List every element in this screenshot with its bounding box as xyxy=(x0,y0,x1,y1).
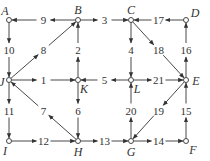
edge-arrow-line xyxy=(11,82,38,106)
edge-weight-label: 14 xyxy=(153,135,165,147)
edge-K-B: 2 xyxy=(75,23,81,78)
edge-H-J: 7 xyxy=(11,82,76,139)
node-label: C xyxy=(127,3,136,17)
edge-weight-label: 21 xyxy=(153,74,164,86)
edge-J-B: 8 xyxy=(11,22,76,78)
edge-weight-label: 7 xyxy=(41,105,47,117)
edge-weight-label: 2 xyxy=(75,44,81,56)
node-J: J xyxy=(0,75,12,89)
node-label: B xyxy=(74,3,82,17)
node-D: D xyxy=(184,6,200,23)
node-label: E xyxy=(191,74,200,88)
node-circle-icon xyxy=(7,18,12,23)
edge-E-G: 19 xyxy=(133,82,184,139)
edge-B-A: 9 xyxy=(12,14,76,26)
node-A: A xyxy=(0,4,11,23)
node-circle-icon xyxy=(76,18,81,23)
edge-weight-label: 11 xyxy=(4,105,15,117)
edge-weight-label: 16 xyxy=(181,44,193,56)
edge-weight-label: 5 xyxy=(102,74,108,86)
node-F: F xyxy=(184,139,198,158)
node-circle-icon xyxy=(76,139,81,144)
node-label: D xyxy=(190,6,200,20)
edge-arrow-line xyxy=(163,82,184,105)
edge-weight-label: 6 xyxy=(75,105,81,117)
edge-arrow-line xyxy=(133,22,154,45)
node-circle-icon xyxy=(129,139,134,144)
edge-weight-label: 9 xyxy=(41,14,47,26)
edge-weight-label: 19 xyxy=(153,105,165,117)
edge-arrow-line xyxy=(163,55,184,78)
node-label: K xyxy=(79,82,89,96)
edge-arrow-line xyxy=(49,115,76,139)
edge-C-L: 4 xyxy=(128,23,134,78)
edge-L-K: 5 xyxy=(81,74,129,86)
edge-F-E: 15 xyxy=(181,83,193,139)
node-label: L xyxy=(133,82,141,96)
edges-layer: 931710824181615211176201915121314 xyxy=(4,14,193,147)
edge-D-C: 17 xyxy=(134,14,184,26)
node-label: F xyxy=(188,143,197,157)
node-circle-icon xyxy=(184,139,189,144)
edge-E-D: 16 xyxy=(181,23,193,78)
edge-G-F: 14 xyxy=(134,135,184,147)
edge-C-E: 18 xyxy=(133,22,184,78)
node-circle-icon xyxy=(7,78,12,83)
edge-J-I: 11 xyxy=(4,83,15,139)
edge-J-K: 1 xyxy=(12,74,76,86)
node-circle-icon xyxy=(184,78,189,83)
edge-weight-label: 3 xyxy=(102,14,108,26)
edge-A-J: 10 xyxy=(4,23,16,78)
node-label: J xyxy=(0,75,5,89)
edge-B-C: 3 xyxy=(81,14,129,26)
edge-weight-label: 4 xyxy=(128,44,134,56)
edge-arrow-line xyxy=(11,55,38,79)
edge-weight-label: 10 xyxy=(4,44,16,56)
node-label: H xyxy=(73,145,84,159)
edge-weight-label: 1 xyxy=(41,74,47,86)
edge-weight-label: 8 xyxy=(41,44,47,56)
edge-weight-label: 15 xyxy=(181,105,193,117)
node-G: G xyxy=(127,139,136,160)
edge-weight-label: 20 xyxy=(126,105,138,117)
node-label: I xyxy=(2,144,8,158)
edge-weight-label: 18 xyxy=(153,44,165,56)
edge-arrow-line xyxy=(49,22,76,45)
node-circle-icon xyxy=(184,18,189,23)
edge-arrow-line xyxy=(133,116,154,139)
node-label: A xyxy=(0,4,9,18)
edge-weight-label: 13 xyxy=(99,135,111,147)
edge-weight-label: 12 xyxy=(38,135,49,147)
edge-L-E: 21 xyxy=(134,74,184,86)
directed-graph: 931710824181615211176201915121314 ABCDJK… xyxy=(0,0,210,161)
node-label: G xyxy=(127,145,136,159)
node-I: I xyxy=(2,139,12,159)
node-H: H xyxy=(73,139,84,160)
edge-I-H: 12 xyxy=(12,135,76,147)
node-circle-icon xyxy=(7,139,12,144)
edge-H-G: 13 xyxy=(81,135,129,147)
node-circle-icon xyxy=(129,18,134,23)
edge-weight-label: 17 xyxy=(153,14,165,26)
